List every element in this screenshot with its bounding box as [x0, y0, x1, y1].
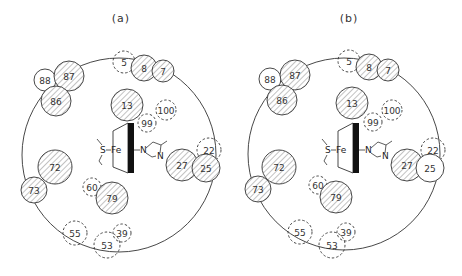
residue-label: 86: [276, 96, 288, 106]
residue-label: 79: [106, 194, 118, 204]
sulfur-atom-label: S: [325, 145, 331, 155]
residue-label: 79: [330, 193, 342, 203]
residue-label: 8: [366, 63, 372, 73]
residue-label: 88: [264, 75, 276, 85]
residue-13: 13: [111, 89, 143, 121]
residue-label: 73: [28, 186, 39, 196]
residue-label: 25: [424, 164, 435, 174]
panel-a: (a)888786587139910022272572736079553953S…: [21, 12, 221, 258]
residue-79: 79: [320, 181, 352, 213]
residue-label: 87: [289, 71, 300, 81]
residue-label: 100: [157, 106, 174, 116]
sulfur-atom-label: S: [100, 145, 106, 155]
iron-atom-label: Fe: [336, 145, 347, 155]
residue-73: 73: [21, 177, 47, 203]
residue-label: 7: [160, 67, 166, 77]
residue-contact-diagram: (a)888786587139910022272572736079553953S…: [0, 0, 462, 276]
residue-99: 99: [138, 114, 156, 132]
methyl-bond: [386, 141, 392, 145]
heme-edge-bar: [128, 123, 134, 173]
nitrogen-atom-label: N: [365, 145, 372, 155]
iron-atom-label: Fe: [111, 145, 122, 155]
residue-label: 55: [294, 228, 305, 238]
residue-label: 13: [346, 99, 357, 109]
residue-39: 39: [337, 223, 355, 241]
residue-label: 72: [273, 163, 284, 173]
residue-label: 13: [121, 101, 132, 111]
residue-72: 72: [262, 150, 296, 184]
residue-label: 87: [63, 72, 74, 82]
nitrogen-atom-label: N: [140, 145, 147, 155]
residue-99: 99: [364, 113, 382, 131]
residue-label: 39: [340, 228, 352, 238]
residue-label: 25: [200, 164, 211, 174]
diagram-figure: (a)888786587139910022272572736079553953S…: [0, 0, 462, 276]
residue-label: 88: [39, 76, 51, 86]
residue-label: 73: [252, 185, 263, 195]
residue-55: 55: [288, 220, 312, 244]
residue-label: 39: [116, 229, 128, 239]
residue-label: 27: [401, 161, 412, 171]
residue-label: 8: [141, 64, 147, 74]
nitrogen-atom-label: N: [157, 151, 164, 161]
residue-label: 86: [50, 97, 62, 107]
methyl-bond: [161, 141, 167, 145]
residue-25: 25: [416, 154, 444, 182]
residue-label: 99: [141, 119, 153, 129]
residue-86: 86: [41, 86, 71, 116]
residue-label: 27: [176, 161, 187, 171]
panel-title: (a): [112, 12, 130, 25]
heme-iron-ligand-group: SFeNN: [322, 123, 392, 173]
residue-100: 100: [382, 100, 402, 120]
nitrogen-atom-label: N: [382, 151, 389, 161]
residue-label: 100: [383, 106, 400, 116]
heme-edge-bar: [353, 123, 359, 173]
heme-iron-ligand-group: SFeNN: [97, 123, 167, 173]
residue-label: 7: [385, 66, 391, 76]
residue-label: 53: [326, 241, 337, 251]
residue-label: 55: [69, 229, 80, 239]
residue-100: 100: [156, 100, 176, 120]
residue-label: 5: [121, 58, 127, 68]
residue-13: 13: [336, 87, 368, 119]
residue-39: 39: [113, 224, 131, 242]
panel-title: (b): [340, 12, 359, 25]
residue-73: 73: [245, 176, 271, 202]
residue-label: 5: [346, 57, 352, 67]
panel-b: (b)888786587139910022272572736079553953S…: [245, 12, 445, 258]
residue-72: 72: [38, 150, 72, 184]
residue-label: 72: [49, 163, 60, 173]
residue-label: 99: [367, 118, 379, 128]
residue-label: 60: [86, 183, 98, 193]
residue-86: 86: [267, 85, 297, 115]
residue-25: 25: [192, 154, 220, 182]
residue-label: 53: [101, 241, 112, 251]
residue-7: 7: [152, 60, 174, 82]
residue-79: 79: [96, 182, 128, 214]
residue-7: 7: [377, 59, 399, 81]
